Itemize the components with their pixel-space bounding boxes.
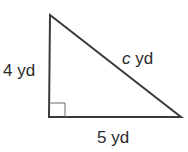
left-leg-unit: yd [17,61,35,80]
left-leg-label: 4 yd [3,62,35,79]
hypotenuse-variable: c [122,49,131,68]
hypotenuse-unit: yd [135,49,153,68]
bottom-leg-label: 5 yd [97,129,129,146]
right-angle-marker [49,103,65,117]
hypotenuse-label: c yd [122,50,153,67]
bottom-leg-unit: yd [111,128,129,147]
bottom-leg-value: 5 [97,128,106,147]
triangle [49,15,181,117]
left-leg-value: 4 [3,61,12,80]
